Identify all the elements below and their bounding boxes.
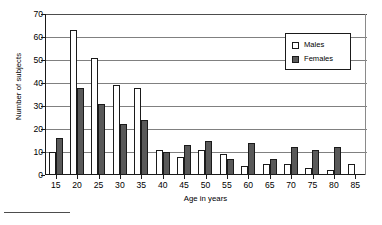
- bar-females-age-35: [141, 120, 148, 175]
- bar-females-age-55: [227, 159, 234, 175]
- bar-males-age-85: [348, 164, 355, 176]
- x-tick-label-75: 75: [301, 181, 325, 190]
- y-tick-mark-0: [41, 175, 45, 176]
- legend-swatch-males: [292, 42, 299, 49]
- bar-group-age-20: [70, 14, 84, 175]
- bar-females-age-20: [77, 88, 84, 175]
- x-axis-title: Age in years: [45, 194, 366, 203]
- x-tick-mark-35: [141, 175, 142, 179]
- y-tick-label-70: 70: [21, 10, 43, 19]
- chart-legend: Males Females: [285, 33, 351, 70]
- bar-group-age-60: [241, 14, 255, 175]
- bar-males-age-35: [134, 88, 141, 175]
- x-tick-label-30: 30: [108, 181, 132, 190]
- bar-males-age-30: [113, 85, 120, 175]
- x-tick-mark-15: [56, 175, 57, 179]
- x-tick-label-45: 45: [172, 181, 196, 190]
- legend-label-males: Males: [304, 41, 324, 49]
- bar-females-age-65: [270, 159, 277, 175]
- x-tick-mark-85: [355, 175, 356, 179]
- bar-females-age-30: [120, 124, 127, 175]
- x-tick-mark-45: [184, 175, 185, 179]
- legend-label-females: Females: [304, 55, 333, 63]
- bar-females-age-45: [184, 145, 191, 175]
- bar-group-age-15: [49, 14, 63, 175]
- bar-males-age-50: [198, 150, 205, 175]
- x-tick-mark-55: [227, 175, 228, 179]
- bar-group-age-40: [156, 14, 170, 175]
- bar-females-age-75: [312, 150, 319, 175]
- y-tick-label-40: 40: [21, 79, 43, 88]
- x-tick-label-70: 70: [279, 181, 303, 190]
- x-tick-label-50: 50: [194, 181, 218, 190]
- bar-females-age-15: [56, 138, 63, 175]
- x-tick-label-40: 40: [151, 181, 175, 190]
- y-tick-label-60: 60: [21, 33, 43, 42]
- bar-males-age-20: [70, 30, 77, 175]
- bar-males-age-25: [91, 58, 98, 175]
- x-tick-label-35: 35: [129, 181, 153, 190]
- bar-males-age-55: [220, 154, 227, 175]
- x-tick-mark-75: [313, 175, 314, 179]
- x-tick-label-80: 80: [322, 181, 346, 190]
- x-tick-mark-65: [270, 175, 271, 179]
- x-tick-mark-50: [206, 175, 207, 179]
- y-tick-label-20: 20: [21, 125, 43, 134]
- x-tick-mark-40: [163, 175, 164, 179]
- bar-males-age-15: [49, 152, 56, 175]
- x-tick-mark-20: [77, 175, 78, 179]
- x-tick-mark-25: [99, 175, 100, 179]
- bar-males-age-70: [284, 164, 291, 176]
- bar-group-age-65: [263, 14, 277, 175]
- bar-females-age-60: [248, 143, 255, 175]
- x-tick-label-85: 85: [343, 181, 367, 190]
- y-tick-label-50: 50: [21, 56, 43, 65]
- bar-chart-figure: Number of subjects 010203040506070 15202…: [0, 0, 382, 225]
- legend-swatch-females: [292, 56, 299, 63]
- x-tick-mark-70: [291, 175, 292, 179]
- bar-females-age-40: [163, 152, 170, 175]
- x-tick-label-55: 55: [215, 181, 239, 190]
- bar-females-age-80: [334, 147, 341, 175]
- x-tick-label-60: 60: [236, 181, 260, 190]
- y-tick-label-0: 0: [21, 171, 43, 180]
- y-tick-label-30: 30: [21, 102, 43, 111]
- bar-group-age-35: [134, 14, 148, 175]
- footer-rule: [4, 212, 70, 213]
- bar-group-age-25: [91, 14, 105, 175]
- bar-group-age-50: [198, 14, 212, 175]
- x-tick-label-20: 20: [65, 181, 89, 190]
- x-tick-mark-80: [334, 175, 335, 179]
- x-tick-label-25: 25: [87, 181, 111, 190]
- x-tick-mark-60: [248, 175, 249, 179]
- bar-males-age-60: [241, 166, 248, 175]
- legend-item-males: Males: [292, 38, 350, 52]
- x-tick-label-65: 65: [258, 181, 282, 190]
- bar-group-age-45: [177, 14, 191, 175]
- bar-males-age-45: [177, 157, 184, 175]
- y-tick-label-10: 10: [21, 148, 43, 157]
- bar-females-age-25: [98, 104, 105, 175]
- bar-males-age-65: [263, 164, 270, 176]
- x-tick-mark-30: [120, 175, 121, 179]
- bar-females-age-70: [291, 147, 298, 175]
- bar-males-age-75: [305, 168, 312, 175]
- legend-item-females: Females: [292, 52, 350, 66]
- bar-males-age-80: [327, 170, 334, 175]
- bar-group-age-55: [220, 14, 234, 175]
- x-tick-label-15: 15: [44, 181, 68, 190]
- bar-females-age-50: [205, 141, 212, 176]
- bar-group-age-30: [113, 14, 127, 175]
- bar-males-age-40: [156, 150, 163, 175]
